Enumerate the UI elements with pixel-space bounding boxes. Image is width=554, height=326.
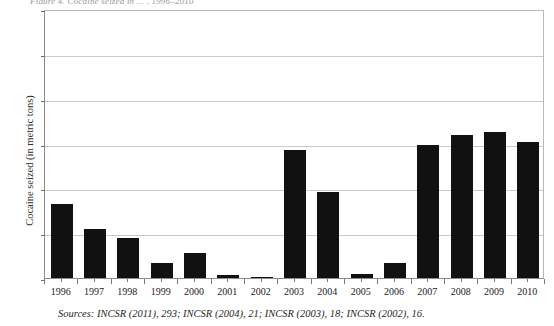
x-tick-label-2010: 2010 [507, 286, 547, 297]
x-tick-mark [244, 279, 245, 284]
x-tick-mark [77, 279, 78, 284]
x-tick-mark [377, 279, 378, 284]
bar-2000 [184, 253, 206, 278]
y-axis-title: Cocaine seized (in metric tons) [24, 36, 35, 286]
x-tick-mark [144, 279, 145, 284]
bar-2002 [251, 277, 273, 279]
x-axis-ticks [44, 279, 544, 285]
x-tick-mark [177, 279, 178, 284]
x-tick-mark [477, 279, 478, 284]
x-tick-minor [527, 279, 528, 282]
figure-title-clipped: Figure 4. Cocaine seized in ... , 1996–2… [30, 0, 500, 4]
bar-2010 [517, 142, 539, 278]
x-tick-mark [311, 279, 312, 284]
x-tick-minor [61, 279, 62, 282]
bar-1999 [151, 263, 173, 278]
x-tick-minor [461, 279, 462, 282]
x-tick-mark [211, 279, 212, 284]
bar-1997 [84, 229, 106, 278]
x-tick-minor [394, 279, 395, 282]
bar-2007 [417, 145, 439, 278]
bar-series [45, 11, 543, 278]
x-tick-mark [344, 279, 345, 284]
x-tick-minor [427, 279, 428, 282]
x-tick-minor [94, 279, 95, 282]
x-tick-minor [327, 279, 328, 282]
x-tick-mark [544, 279, 545, 284]
figure-container: Figure 4. Cocaine seized in ... , 1996–2… [0, 0, 554, 326]
x-tick-minor [494, 279, 495, 282]
x-axis-labels: 1996199719981999200020012002200320042005… [44, 286, 544, 300]
x-tick-mark [111, 279, 112, 284]
x-tick-minor [127, 279, 128, 282]
bar-2003 [284, 150, 306, 278]
x-tick-minor [294, 279, 295, 282]
bar-2006 [384, 263, 406, 278]
x-tick-mark [511, 279, 512, 284]
x-tick-minor [194, 279, 195, 282]
x-tick-mark [411, 279, 412, 284]
x-tick-mark [44, 279, 45, 284]
x-tick-mark [444, 279, 445, 284]
x-tick-minor [161, 279, 162, 282]
plot-area: 024681012 [44, 10, 544, 279]
x-tick-minor [261, 279, 262, 282]
bar-2004 [317, 192, 339, 278]
x-tick-minor [227, 279, 228, 282]
source-note: Sources: INCSR (2011), 293; INCSR (2004)… [58, 308, 425, 319]
bar-2009 [484, 132, 506, 278]
bar-1996 [51, 204, 73, 278]
bar-2001 [217, 275, 239, 278]
x-tick-minor [361, 279, 362, 282]
bar-2005 [351, 274, 373, 278]
bar-1998 [117, 238, 139, 278]
x-tick-mark [277, 279, 278, 284]
bar-2008 [451, 135, 473, 278]
